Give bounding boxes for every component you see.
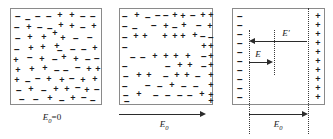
positive-charge: + <box>92 44 97 53</box>
negative-charge: − <box>200 32 206 41</box>
negative-charge: − <box>81 45 87 54</box>
applied-field-arrow-head <box>267 59 273 65</box>
positive-charge: + <box>57 11 62 20</box>
positive-charge: + <box>41 33 46 42</box>
negative-charge: − <box>46 12 52 21</box>
physics-figure: −−−−++−−−+−−++−+−++++−−−+++−−−++−+−++−−+… <box>0 0 333 139</box>
negative-charge: − <box>151 21 157 30</box>
caption-rest: =0 <box>52 112 62 122</box>
negative-charge: − <box>122 22 128 31</box>
positive-charge: + <box>163 22 168 31</box>
positive-charge: + <box>64 85 69 94</box>
panel-no-field: −−−−++−−−+−−++−+−++++−−−+++−−−++−+−++−−+… <box>0 0 111 139</box>
positive-charge: + <box>315 93 320 102</box>
positive-charge: + <box>70 94 75 103</box>
negative-charge: − <box>59 96 65 105</box>
negative-charge: − <box>145 81 151 90</box>
positive-charge: + <box>172 32 177 41</box>
external-field-arrow-head <box>200 111 206 117</box>
negative-charge: − <box>196 21 202 30</box>
negative-charge: − <box>237 93 243 102</box>
caption-subscript: 0 <box>279 124 282 131</box>
positive-charge: + <box>208 42 213 51</box>
negative-charge: − <box>80 23 86 32</box>
positive-charge: + <box>208 11 213 20</box>
positive-charge: + <box>177 61 182 70</box>
positive-charge: + <box>53 85 58 94</box>
positive-charge: + <box>69 11 74 20</box>
external-field-arrow-shaft <box>119 114 201 115</box>
negative-charge: − <box>75 63 81 72</box>
negative-charge: − <box>69 74 75 83</box>
negative-charge: − <box>35 12 41 21</box>
positive-charge: + <box>14 76 19 85</box>
negative-charge: − <box>130 53 136 62</box>
positive-charge: + <box>13 56 18 65</box>
positive-charge: + <box>208 71 213 80</box>
positive-charge: + <box>201 42 206 51</box>
applied-field-label: E <box>255 49 261 59</box>
positive-charge: + <box>208 97 213 106</box>
caption-panel-2: E0 <box>160 119 169 131</box>
negative-charge: − <box>123 72 129 81</box>
conductor-box-3 <box>232 8 325 105</box>
negative-charge: − <box>124 97 130 106</box>
negative-charge: − <box>52 55 58 64</box>
negative-charge: − <box>145 13 151 22</box>
negative-charge: − <box>193 82 199 91</box>
positive-charge: + <box>174 71 179 80</box>
positive-charge: + <box>27 33 32 42</box>
positive-charge: + <box>136 71 141 80</box>
negative-charge: − <box>94 54 100 63</box>
negative-charge: − <box>165 62 171 71</box>
negative-charge: − <box>153 91 159 100</box>
negative-charge: − <box>73 34 79 43</box>
positive-charge: + <box>86 65 91 74</box>
positive-charge: + <box>26 23 31 32</box>
positive-charge: + <box>208 61 213 70</box>
panel-polarized: −+−−−++−++−−−+−+−+−++++++−−−++−−++++−+−−… <box>108 0 220 139</box>
negative-charge: − <box>27 53 33 62</box>
positive-charge: + <box>187 61 192 70</box>
negative-charge: − <box>87 33 93 42</box>
caption-subscript: 0 <box>165 124 168 131</box>
negative-charge: − <box>90 96 96 105</box>
negative-charge: − <box>177 91 183 100</box>
positive-charge: + <box>207 22 212 31</box>
mid-boundary-guide <box>274 30 275 75</box>
negative-charge: − <box>41 86 47 95</box>
negative-charge: − <box>190 11 196 20</box>
caption-panel-3: E0 <box>274 119 283 131</box>
positive-charge: + <box>184 71 189 80</box>
negative-charge: − <box>165 91 171 100</box>
external-field-arrow-head-3 <box>302 111 308 117</box>
negative-charge: − <box>163 11 169 20</box>
positive-charge: + <box>61 53 66 62</box>
positive-charge: + <box>95 65 100 74</box>
negative-charge: − <box>14 45 20 54</box>
positive-charge: + <box>47 94 52 103</box>
positive-charge: + <box>52 29 57 38</box>
negative-charge: − <box>15 12 21 21</box>
negative-charge: − <box>195 72 201 81</box>
induced-field-label: E′ <box>282 28 289 38</box>
negative-charge: − <box>37 23 43 32</box>
negative-charge: − <box>63 66 69 75</box>
positive-charge: + <box>60 34 65 43</box>
positive-charge: + <box>152 52 157 61</box>
negative-charge: − <box>35 74 41 83</box>
negative-charge: − <box>122 43 128 52</box>
negative-charge: − <box>85 55 91 64</box>
positive-charge: + <box>208 81 213 90</box>
positive-charge: + <box>133 32 138 41</box>
positive-charge: + <box>200 11 205 20</box>
positive-charge: + <box>180 32 185 41</box>
negative-charge: − <box>70 45 76 54</box>
negative-charge: − <box>15 34 21 43</box>
negative-charge: − <box>201 62 207 71</box>
positive-charge: + <box>199 90 204 99</box>
negative-charge: − <box>122 33 128 42</box>
negative-charge: − <box>14 23 20 32</box>
positive-charge: + <box>142 32 147 41</box>
negative-charge: − <box>122 62 128 71</box>
